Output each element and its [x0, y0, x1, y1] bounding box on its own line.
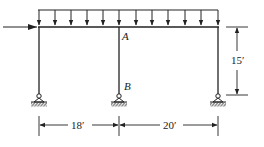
height-dimension-label: 15′	[231, 54, 244, 66]
pin-support-right	[210, 94, 226, 107]
joint-a-label: A	[121, 30, 129, 42]
distributed-load	[38, 10, 218, 25]
frame-diagram: A B 15′ 18′ 20′	[0, 0, 264, 147]
span-left-label: 18′	[71, 119, 84, 131]
span-right-label: 20′	[163, 119, 176, 131]
span-dimension	[39, 116, 218, 136]
support-b-label: B	[124, 80, 131, 92]
pin-support-left	[31, 94, 47, 107]
pin-support-middle	[111, 94, 127, 107]
load-arrows	[39, 10, 218, 25]
